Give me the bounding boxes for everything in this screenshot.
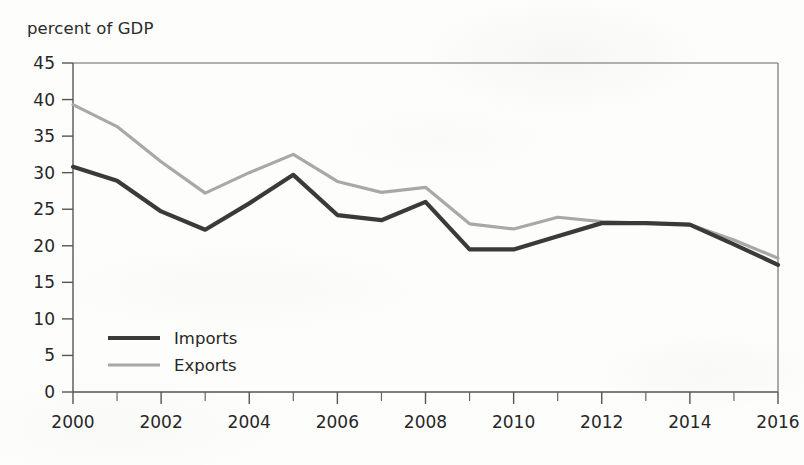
- x-axis-ticks: [73, 392, 778, 404]
- x-tick-label: 2006: [316, 412, 359, 432]
- y-tick-label: 45: [33, 53, 55, 73]
- y-axis-title: percent of GDP: [27, 19, 153, 38]
- y-tick-label: 25: [33, 199, 55, 219]
- chart-page: percent of GDP 051015202530354045 200020…: [0, 0, 804, 465]
- y-tick-label: 40: [33, 90, 55, 110]
- x-tick-label: 2014: [668, 412, 711, 432]
- chart-legend: ImportsExports: [108, 329, 237, 375]
- x-tick-label: 2010: [492, 412, 535, 432]
- x-axis-tick-labels: 200020022004200620082010201220142016: [51, 412, 799, 432]
- y-tick-label: 15: [33, 272, 55, 292]
- line-chart: 051015202530354045 200020022004200620082…: [0, 0, 804, 465]
- y-tick-label: 5: [44, 345, 55, 365]
- data-series-group: [73, 105, 778, 265]
- x-tick-label: 2000: [51, 412, 94, 432]
- legend-label-imports: Imports: [174, 329, 237, 348]
- series-line-exports: [73, 105, 778, 259]
- y-tick-label: 30: [33, 163, 55, 183]
- y-tick-label: 10: [33, 309, 55, 329]
- y-axis-ticks: [62, 63, 73, 392]
- x-tick-label: 2016: [756, 412, 799, 432]
- y-tick-label: 35: [33, 126, 55, 146]
- y-tick-label: 0: [44, 382, 55, 402]
- series-line-imports: [73, 167, 778, 265]
- x-tick-label: 2004: [228, 412, 271, 432]
- x-tick-label: 2008: [404, 412, 447, 432]
- legend-label-exports: Exports: [174, 356, 237, 375]
- y-tick-label: 20: [33, 236, 55, 256]
- x-tick-label: 2002: [139, 412, 182, 432]
- y-axis-tick-labels: 051015202530354045: [33, 53, 55, 402]
- x-tick-label: 2012: [580, 412, 623, 432]
